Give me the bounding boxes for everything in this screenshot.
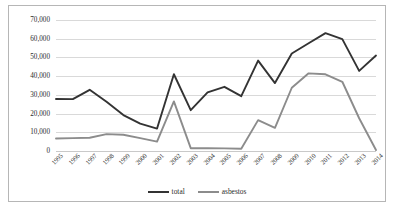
x-axis-label: 1996 bbox=[67, 152, 81, 166]
x-axis-label: 2006 bbox=[235, 152, 249, 166]
y-axis-label: 20,000 bbox=[30, 110, 50, 118]
x-axis-label: 2002 bbox=[168, 152, 182, 166]
x-axis-label: 2011 bbox=[320, 152, 334, 166]
legend-item-asbestos[interactable]: asbestos bbox=[198, 188, 247, 196]
x-axis-label: 2009 bbox=[286, 152, 300, 166]
x-axis-label: 1997 bbox=[84, 152, 98, 166]
x-axis-label: 2008 bbox=[269, 152, 283, 166]
chart-legend: totalasbestos bbox=[9, 188, 385, 196]
x-axis-label: 2003 bbox=[185, 152, 199, 166]
x-axis-label: 2005 bbox=[218, 152, 232, 166]
x-axis-label: 2014 bbox=[370, 152, 384, 166]
plot-area bbox=[56, 20, 376, 151]
y-axis-label: 70,000 bbox=[30, 16, 50, 24]
y-axis-label: 30,000 bbox=[30, 91, 50, 99]
legend-item-total[interactable]: total bbox=[148, 188, 185, 196]
legend-label: total bbox=[172, 188, 185, 196]
y-axis-label: 60,000 bbox=[30, 35, 50, 43]
y-axis-label: 10,000 bbox=[30, 128, 50, 136]
x-axis: 1995199619971998199920002001200220032004… bbox=[56, 152, 376, 186]
x-axis-label: 2000 bbox=[134, 152, 148, 166]
y-axis-label: 40,000 bbox=[30, 72, 50, 80]
x-axis-label: 2007 bbox=[252, 152, 266, 166]
x-axis-label: 2013 bbox=[353, 152, 367, 166]
x-axis-label: 2004 bbox=[202, 152, 216, 166]
series-lines bbox=[56, 20, 376, 151]
chart-frame: 010,00020,00030,00040,00050,00060,00070,… bbox=[8, 5, 386, 202]
x-axis-label: 2001 bbox=[151, 152, 165, 166]
legend-swatch-total bbox=[148, 191, 169, 193]
x-axis-label: 2010 bbox=[303, 152, 317, 166]
x-axis-label: 1999 bbox=[117, 152, 131, 166]
legend-label: asbestos bbox=[222, 188, 247, 196]
legend-swatch-asbestos bbox=[198, 191, 219, 193]
x-axis-label: 1998 bbox=[100, 152, 114, 166]
series-line-total bbox=[56, 33, 376, 128]
series-line-asbestos bbox=[56, 73, 376, 150]
y-axis-label: 50,000 bbox=[30, 53, 50, 61]
x-axis-label: 2012 bbox=[336, 152, 350, 166]
y-axis: 010,00020,00030,00040,00050,00060,00070,… bbox=[9, 6, 55, 166]
y-axis-label: 0 bbox=[46, 147, 50, 155]
